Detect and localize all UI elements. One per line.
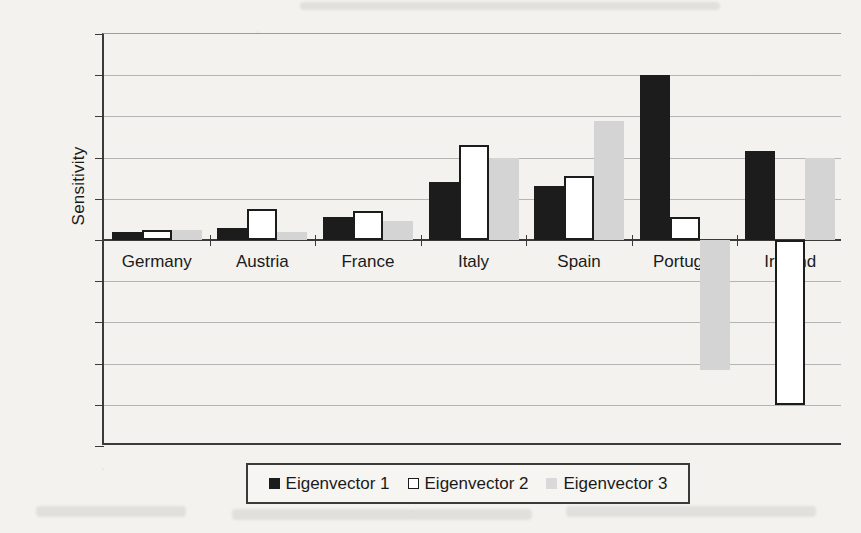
- bar: [383, 221, 413, 240]
- bar: [247, 209, 277, 240]
- legend-swatch-icon: [546, 478, 557, 489]
- x-axis-category-label: Austria: [236, 252, 289, 272]
- plot-area: GermanyAustriaFranceItalySpainPortugalIr…: [102, 33, 841, 445]
- bar: [112, 232, 142, 240]
- bar: [564, 176, 594, 240]
- gridline: [104, 281, 841, 282]
- bar: [323, 217, 353, 240]
- scan-smudge: [36, 506, 186, 517]
- chart-legend: Eigenvector 1Eigenvector 2Eigenvector 3: [246, 463, 690, 504]
- y-axis-tick: [95, 322, 104, 323]
- chart-figure: Sensitivity GermanyAustriaFranceItalySpa…: [0, 0, 861, 533]
- legend-swatch-icon: [269, 478, 280, 489]
- legend-label: Eigenvector 3: [563, 474, 667, 494]
- bar: [217, 228, 247, 240]
- y-axis-tick: [95, 116, 104, 117]
- bar: [805, 158, 835, 240]
- y-axis-tick: [95, 240, 104, 241]
- legend-label: Eigenvector 1: [286, 474, 390, 494]
- x-axis-category-label: Italy: [458, 252, 489, 272]
- legend-item: Eigenvector 3: [546, 474, 667, 494]
- bar: [277, 232, 307, 240]
- bar: [142, 230, 172, 240]
- y-axis-tick: [95, 364, 104, 365]
- x-axis-tick: [315, 235, 316, 246]
- bar: [775, 240, 805, 405]
- legend-item: Eigenvector 2: [408, 474, 529, 494]
- gridline: [104, 364, 841, 365]
- y-axis-title: Sensitivity: [69, 121, 89, 251]
- x-axis-category-label: France: [341, 252, 394, 272]
- bar: [640, 75, 670, 240]
- gridline: [104, 322, 841, 323]
- bar: [670, 217, 700, 240]
- y-axis-tick: [95, 199, 104, 200]
- bar: [172, 230, 202, 240]
- scan-smudge: [566, 506, 816, 517]
- bar: [459, 145, 489, 240]
- bar: [745, 151, 775, 240]
- scan-smudge: [300, 2, 720, 10]
- x-axis-tick: [210, 235, 211, 246]
- bar: [429, 182, 459, 240]
- x-axis-tick: [737, 235, 738, 246]
- gridline: [104, 75, 841, 76]
- legend-label: Eigenvector 2: [425, 474, 529, 494]
- x-axis-category-label: Germany: [122, 252, 192, 272]
- y-axis-tick: [95, 158, 104, 159]
- gridline: [104, 116, 841, 117]
- bar: [489, 158, 519, 240]
- x-axis-tick: [526, 235, 527, 246]
- y-axis-tick: [95, 446, 104, 447]
- bar: [353, 211, 383, 240]
- bar: [534, 186, 564, 240]
- y-axis-tick: [95, 34, 104, 35]
- legend-swatch-icon: [408, 478, 419, 489]
- y-axis-tick: [95, 405, 104, 406]
- bar: [700, 240, 730, 370]
- gridline: [104, 405, 841, 406]
- y-axis-tick: [95, 75, 104, 76]
- bar: [594, 121, 624, 240]
- y-axis-tick: [95, 281, 104, 282]
- x-axis-tick: [632, 235, 633, 246]
- legend-item: Eigenvector 1: [269, 474, 390, 494]
- scan-smudge: [232, 509, 532, 520]
- x-axis-tick: [421, 235, 422, 246]
- x-axis-category-label: Spain: [557, 252, 600, 272]
